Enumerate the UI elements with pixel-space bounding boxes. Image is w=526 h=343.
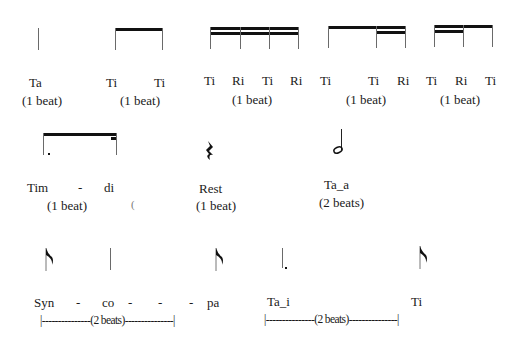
syllable-ti: Ti: [106, 75, 117, 91]
duration-ti-ri-ti-ri: (1 beat): [232, 92, 272, 108]
syllable-dash: -: [189, 295, 193, 311]
syllable-ri: Ri: [290, 73, 302, 89]
syllable-dash: -: [78, 180, 82, 196]
note-stem: [115, 28, 116, 50]
syllable-ta: Ta: [29, 75, 42, 91]
syllable-ti: Ti: [368, 73, 379, 89]
syllable-dash: -: [128, 295, 132, 311]
syllable-ti: Ti: [204, 73, 215, 89]
eighth-note-icon: [45, 248, 55, 272]
syllable-ri: Ri: [232, 73, 244, 89]
quarter-rest-icon: [205, 141, 215, 161]
note-stem: [240, 27, 241, 49]
duration-ta-i-ti: |---------------(2 beats)---------------…: [264, 313, 399, 325]
note-stem: [162, 28, 163, 50]
duration-ti-ri-ti: (1 beat): [440, 92, 480, 108]
eighth-note-icon: [215, 248, 225, 272]
note-stem: [116, 133, 117, 155]
sixteenth-beam-bottom: [210, 32, 299, 35]
duration-ti-ti: (1 beat): [120, 93, 160, 109]
note-stem: [492, 25, 493, 47]
ta-a-label: Ta_a: [324, 177, 349, 193]
eighth-beam: [115, 28, 163, 31]
syllable-syn: Syn: [34, 295, 54, 311]
note-stem: [463, 25, 464, 47]
syllable-dash: -: [76, 295, 80, 311]
sixteenth-beam: [434, 30, 464, 33]
note-stem: [405, 26, 406, 48]
quarter-note-stem: [38, 28, 39, 50]
syllable-tim: Tim: [27, 180, 48, 196]
syllable-ti: Ti: [262, 73, 273, 89]
eighth-note-icon: [419, 246, 429, 270]
syllable-ti: Ti: [485, 73, 496, 89]
dot-icon: [48, 153, 50, 155]
duration-ti-ti-ri: (1 beat): [346, 92, 386, 108]
duration-syncopa: |---------------(2 beats)---------------…: [40, 314, 175, 326]
syllable-ri: Ri: [397, 73, 409, 89]
dotted-quarter-stem: [282, 248, 283, 268]
sixteenth-beam: [376, 31, 406, 34]
dotted-eighth-beam: [43, 133, 117, 136]
eighth-beam: [328, 26, 406, 29]
quarter-note-stem: [110, 248, 111, 270]
syllable-ti: Ti: [320, 73, 331, 89]
duration-tim-di: (1 beat): [47, 198, 87, 214]
note-stem: [269, 27, 270, 49]
syllable-ti: Ti: [154, 75, 165, 91]
syllable-dash: -: [158, 295, 162, 311]
dot-icon: [285, 267, 287, 269]
duration-ta: (1 beat): [22, 93, 62, 109]
duration-rest: (1 beat): [196, 198, 236, 214]
syllable-ti: Ti: [411, 294, 422, 310]
note-stem: [434, 25, 435, 47]
note-stem: [210, 27, 211, 49]
syllable-ri: Ri: [455, 73, 467, 89]
half-note-head-icon: [333, 146, 343, 154]
syllable-co: co: [102, 295, 114, 311]
note-stem: [328, 26, 329, 48]
stray-paren: (: [131, 198, 135, 210]
syllable-ti: Ti: [426, 73, 437, 89]
note-stem: [43, 133, 44, 155]
syllable-pa: pa: [207, 295, 219, 311]
sixteenth-beam-top: [210, 27, 299, 30]
syllable-ta-i: Ta_i: [267, 294, 290, 310]
note-stem: [298, 27, 299, 49]
note-stem: [376, 26, 377, 48]
duration-ta-a: (2 beats): [319, 195, 364, 211]
syllable-di: di: [104, 180, 114, 196]
rest-label: Rest: [199, 181, 222, 197]
